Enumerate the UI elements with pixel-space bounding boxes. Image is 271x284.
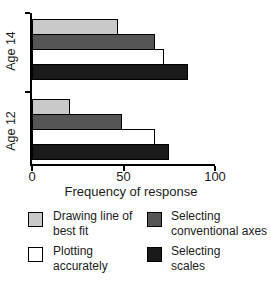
bar-group-age-14 [32, 19, 215, 80]
y-axis-tick [25, 91, 30, 93]
legend-swatch-plotting-accurately [28, 247, 43, 262]
legend-swatch-selecting-conventional-axes [147, 212, 162, 227]
bar-selecting-conventional-axes [32, 114, 122, 130]
legend-swatch-drawing-line-of-best-fit [28, 212, 43, 227]
bar-selecting-scales [32, 64, 188, 80]
legend-label-drawing-line-of-best-fit: Drawing line of best fit [53, 209, 145, 239]
legend-label-plotting-accurately: Plotting accurately [53, 244, 125, 274]
group-label-age-12: Age 12 [4, 111, 18, 151]
legend-label-selecting-scales: Selecting scales [171, 244, 243, 274]
bar-chart-figure: 0 50 100 Age 14 Age 12 Frequency of resp… [0, 0, 271, 284]
bar-drawing-line-of-best-fit [32, 99, 70, 115]
bar-plotting-accurately [32, 49, 164, 65]
bar-selecting-scales [32, 144, 169, 160]
bar-drawing-line-of-best-fit [32, 19, 118, 35]
x-tick-label-100: 100 [204, 170, 226, 183]
bar-selecting-conventional-axes [32, 34, 155, 50]
group-label-age-14: Age 14 [4, 31, 18, 71]
legend-swatch-selecting-scales [147, 247, 162, 262]
x-tick-label-50: 50 [116, 170, 130, 183]
x-tick-label-0: 0 [28, 170, 35, 183]
bar-plotting-accurately [32, 129, 155, 145]
bar-group-age-12 [32, 99, 215, 160]
plot-area: 0 50 100 Age 14 Age 12 [30, 13, 215, 166]
y-axis-tick [25, 12, 30, 14]
x-axis-title: Frequency of response [32, 184, 230, 199]
legend-label-selecting-conventional-axes: Selecting conventional axes [171, 209, 271, 239]
